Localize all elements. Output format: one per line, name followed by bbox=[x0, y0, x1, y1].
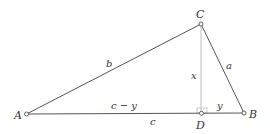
vertex-b-point bbox=[242, 111, 246, 115]
side-b-label: b bbox=[106, 58, 112, 69]
side-a-label: a bbox=[226, 60, 232, 71]
segment-y-label: y bbox=[216, 100, 223, 111]
side-c-label: c bbox=[150, 116, 156, 127]
vertex-b-label: B bbox=[248, 108, 257, 121]
triangle-diagram: A B C D b a x c − y y c bbox=[0, 0, 270, 134]
vertex-c-label: C bbox=[196, 8, 205, 21]
segment-c-minus-y-label: c − y bbox=[111, 100, 137, 111]
altitude-x-label: x bbox=[191, 70, 197, 81]
vertex-a-point bbox=[25, 112, 29, 116]
vertex-a-label: A bbox=[13, 109, 22, 122]
vertex-d-label: D bbox=[195, 119, 205, 132]
vertex-d-point bbox=[200, 111, 204, 115]
side-c bbox=[27, 113, 245, 114]
vertex-c-point bbox=[199, 22, 203, 26]
